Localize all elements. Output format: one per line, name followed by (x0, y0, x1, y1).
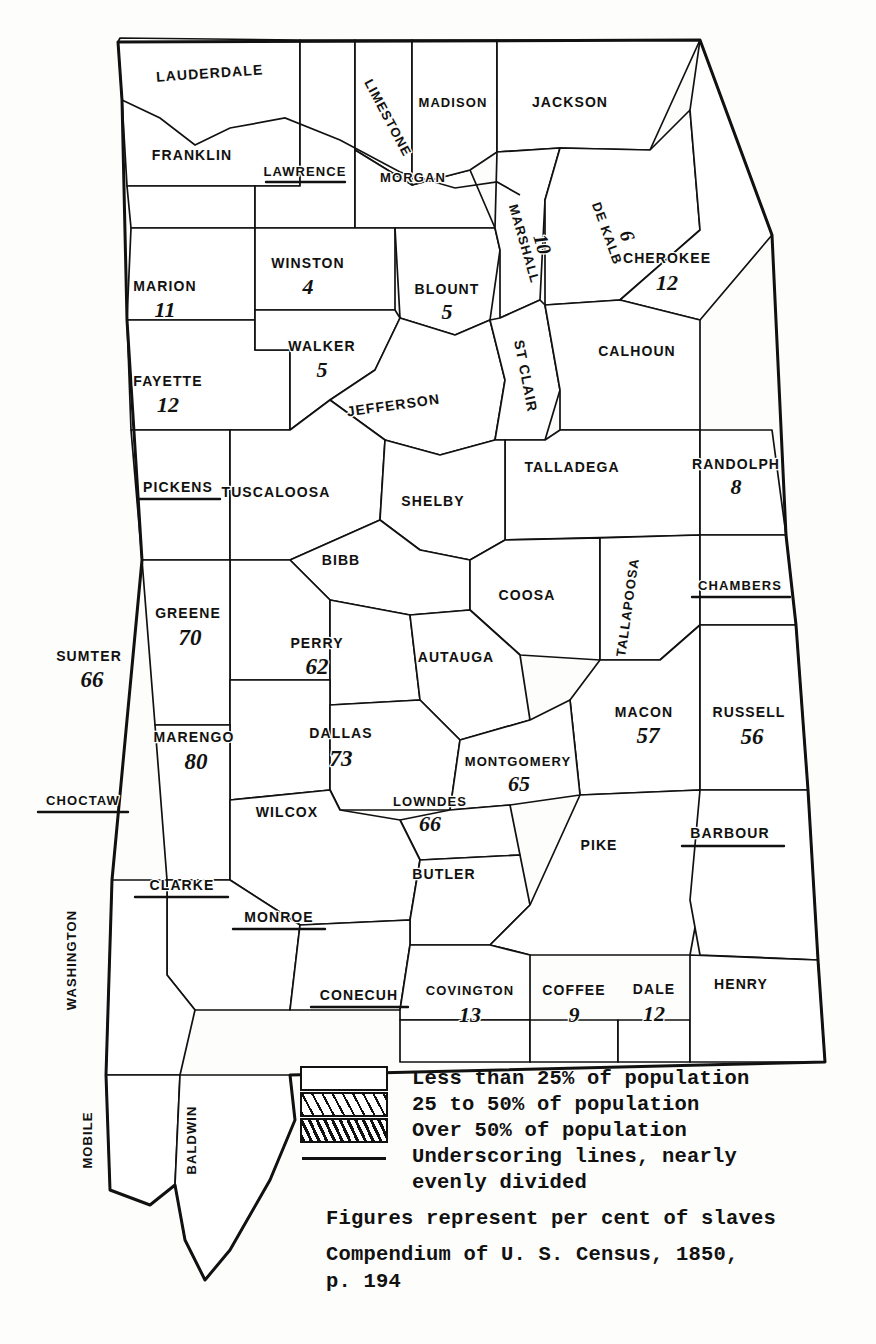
value-coffee: 9 (569, 1002, 580, 1027)
label-choctaw: CHOCTAW (46, 793, 120, 808)
label-butler: BUTLER (412, 866, 475, 882)
legend-item-3: Underscoring lines, nearly (300, 1144, 860, 1169)
label-marengo: MARENGO (154, 729, 235, 745)
label-marion: MARION (133, 278, 196, 294)
legend-label-3: Underscoring lines, nearly (412, 1144, 737, 1169)
label-lowndes: LOWNDES (393, 794, 467, 809)
value-walker: 5 (317, 357, 328, 382)
label-coosa: COOSA (499, 587, 556, 603)
label-conecuh: CONECUH (320, 987, 398, 1003)
value-marengo: 80 (185, 749, 209, 774)
county-talladega (505, 430, 700, 540)
value-marion: 11 (155, 297, 176, 322)
legend-swatch-empty-box (300, 1066, 388, 1091)
county-marion (127, 228, 255, 320)
county-franklin (127, 186, 255, 228)
county-randolph (700, 430, 786, 535)
label-jackson: JACKSON (532, 94, 608, 110)
label-blount: BLOUNT (415, 281, 480, 297)
label-dale: DALE (633, 981, 676, 997)
note-source: Compendium of U. S. Census, 1850, (326, 1241, 860, 1268)
label-mobile: MOBILE (80, 1111, 95, 1168)
legend-swatch-plain-line (300, 1144, 388, 1169)
value-winston: 4 (302, 274, 314, 299)
label-pike: PIKE (580, 837, 617, 853)
label-washington: WASHINGTON (64, 910, 79, 1010)
county-dale (618, 1020, 690, 1062)
legend-item-2: Over 50% of population (300, 1118, 860, 1143)
label-calhoun: CALHOUN (598, 343, 676, 359)
label-cherokee: CHEROKEE (623, 250, 711, 266)
legend-item-0: Less than 25% of population (300, 1066, 860, 1091)
label-talladega: TALLADEGA (524, 459, 619, 475)
value-russell: 56 (741, 724, 765, 749)
county-mobile (106, 1075, 180, 1205)
label-morgan: MORGAN (380, 170, 446, 185)
label-perry: PERRY (290, 635, 343, 651)
note-page: p. 194 (326, 1268, 860, 1295)
value-blount: 5 (442, 299, 453, 324)
label-randolph: RANDOLPH (692, 456, 780, 472)
label-coffee: COFFEE (542, 982, 605, 998)
legend-item-1: 25 to 50% of population (300, 1092, 860, 1117)
label-walker: WALKER (288, 338, 355, 354)
label-barbour: BARBOUR (690, 825, 769, 841)
legend-label-2: Over 50% of population (412, 1118, 687, 1143)
legend-swatch-dense-hatch-box (300, 1118, 388, 1143)
label-pickens: PICKENS (143, 479, 213, 495)
legend-label-1: 25 to 50% of population (412, 1092, 700, 1117)
county-pickens (131, 430, 230, 560)
label-monroe: MONROE (244, 909, 314, 925)
county-barbour (690, 790, 818, 960)
label-wilcox: WILCOX (256, 804, 319, 820)
label-lawrence: LAWRENCE (263, 164, 346, 179)
county-calhoun (545, 300, 700, 430)
alabama-slave-population-map: LAUDERDALE LIMESTONE MADISON JACKSON FRA… (0, 0, 876, 1344)
legend-label-3-cont: evenly divided (412, 1170, 860, 1195)
label-covington: COVINGTON (426, 983, 514, 998)
label-henry: HENRY (714, 976, 768, 992)
map-legend: Less than 25% of population 25 to 50% of… (300, 1066, 860, 1295)
label-clarke: CLARKE (150, 877, 215, 893)
label-sumter: SUMTER (56, 648, 122, 664)
label-greene: GREENE (155, 605, 221, 621)
note-figures: Figures represent per cent of slaves (326, 1205, 860, 1232)
label-winston: WINSTON (271, 255, 345, 271)
label-baldwin: BALDWIN (184, 1105, 199, 1174)
label-shelby: SHELBY (401, 493, 464, 509)
value-dale: 12 (643, 1001, 665, 1026)
legend-swatch-sparse-hatch-box (300, 1092, 388, 1117)
county-madison (412, 40, 497, 185)
label-fayette: FAYETTE (133, 373, 202, 389)
value-fayette: 12 (157, 392, 179, 417)
county-lowndes (400, 805, 520, 860)
value-montgomery: 65 (508, 771, 530, 796)
value-greene: 70 (179, 625, 203, 650)
label-montgomery: MONTGOMERY (465, 754, 572, 769)
value-dallas: 73 (330, 746, 353, 771)
legend-label-0: Less than 25% of population (412, 1066, 750, 1091)
value-lowndes: 66 (419, 811, 441, 836)
label-russell: RUSSELL (712, 704, 785, 720)
label-autauga: AUTAUGA (418, 649, 495, 665)
value-covington: 13 (459, 1002, 481, 1027)
value-macon: 57 (637, 723, 662, 748)
county-henry (690, 955, 825, 1062)
county-perry (330, 600, 420, 705)
value-perry: 62 (306, 654, 329, 679)
label-franklin: FRANKLIN (152, 147, 232, 163)
label-macon: MACON (615, 704, 673, 720)
value-sumter: 66 (81, 667, 105, 692)
value-cherokee: 12 (656, 270, 678, 295)
label-bibb: BIBB (322, 552, 361, 568)
label-dallas: DALLAS (309, 725, 372, 741)
label-tuscaloosa: TUSCALOOSA (222, 484, 331, 500)
value-randolph: 8 (731, 474, 742, 499)
label-chambers: CHAMBERS (698, 578, 782, 593)
label-madison: MADISON (418, 95, 487, 110)
